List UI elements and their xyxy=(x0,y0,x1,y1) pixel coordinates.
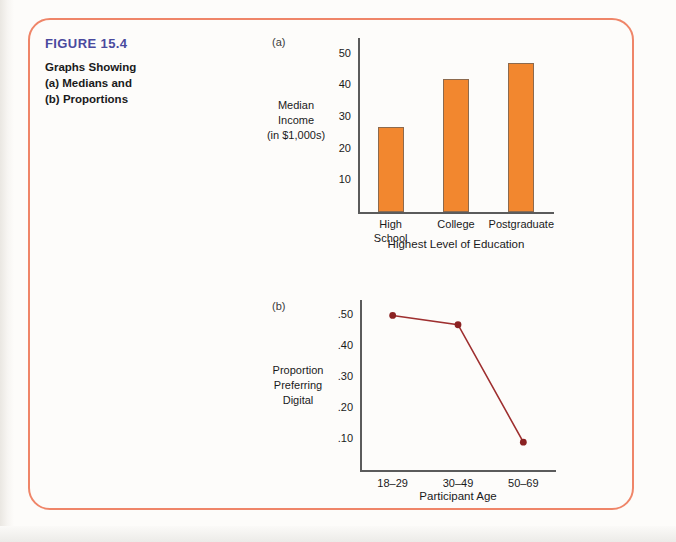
chart-b-x-tick-label: 30–49 xyxy=(425,477,490,491)
chart-b-data-point xyxy=(389,312,396,319)
chart-b-y-tick-label: .30 xyxy=(328,370,353,382)
panel-label-b: (b) xyxy=(272,300,285,312)
chart-b-data-point xyxy=(520,439,527,446)
chart-b-x-tick-label: 18–29 xyxy=(360,477,425,491)
chart-b-x-tick-label: 50–69 xyxy=(491,477,556,491)
chart-b-series-line xyxy=(360,300,556,470)
chart-b-y-tick-label: .20 xyxy=(328,401,353,413)
chart-b-plot-area: .10.20.30.40.5018–2930–4950–69 xyxy=(360,300,556,470)
chart-b-x-axis-line xyxy=(360,470,556,472)
chart-b-data-point xyxy=(455,321,462,328)
chart-b-y-tick-label: .10 xyxy=(328,432,353,444)
chart-panel-b: (b) Proportion Preferring Digital .10.20… xyxy=(0,0,676,542)
chart-b-y-tick-label: .40 xyxy=(328,339,353,351)
chart-b-x-axis-title: Participant Age xyxy=(360,490,556,502)
chart-b-y-tick-label: .50 xyxy=(328,308,353,320)
